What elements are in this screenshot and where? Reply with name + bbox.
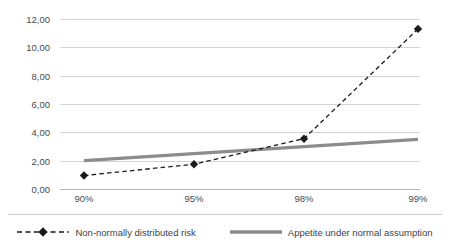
plot-area [60,19,420,189]
series-line-risk [84,29,418,176]
gridline-0-axis [60,189,420,190]
series-layer [60,19,420,189]
chart-container: 0,00 2,00 4,00 6,00 8,00 10,00 12,00 90%… [0,0,450,247]
x-tick-label: 95% [184,193,203,204]
legend-label-appetite: Appetite under normal assumption [288,227,433,238]
y-tick-label: 8,00 [32,70,51,81]
y-tick-label: 4,00 [32,127,51,138]
y-tick-label: 6,00 [32,99,51,110]
data-point-marker [80,171,88,179]
y-axis: 0,00 2,00 4,00 6,00 8,00 10,00 12,00 [0,19,54,189]
legend-label-risk: Non-normally distributed risk [75,227,195,238]
solid-thick-gray-swatch [230,226,282,238]
y-tick-label: 0,00 [32,184,51,195]
series-line-appetite [84,139,418,160]
legend-item-appetite: Appetite under normal assumption [230,226,433,238]
legend-item-risk: Non-normally distributed risk [17,226,195,238]
y-tick-label: 2,00 [32,155,51,166]
x-axis: 90% 95% 98% 99% [60,193,420,209]
legend-divider [8,214,442,215]
x-tick-label: 90% [74,193,93,204]
y-tick-label: 10,00 [26,42,50,53]
x-tick-label: 99% [408,193,427,204]
y-tick-label: 12,00 [26,14,50,25]
chart-legend: Non-normally distributed risk Appetite u… [8,222,442,242]
x-tick-label: 98% [294,193,313,204]
data-point-marker [190,160,198,168]
dashed-diamond-swatch [17,226,69,238]
